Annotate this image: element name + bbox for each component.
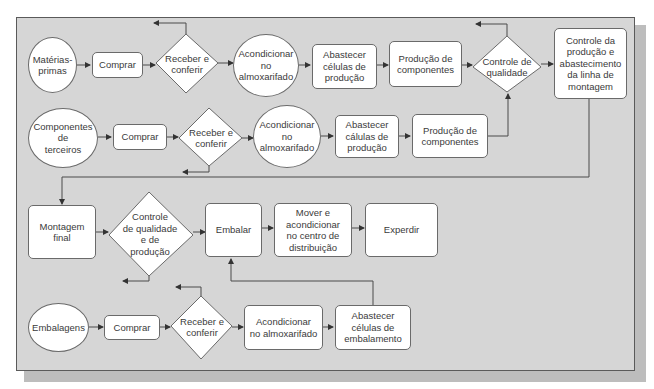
node-receber-conferir-2[interactable]: Receber e conferir xyxy=(180,124,242,152)
node-expedir[interactable]: Experdir xyxy=(365,203,438,257)
node-producao-1[interactable]: Produção de componentes xyxy=(389,41,462,87)
node-controle-producao[interactable]: Controle da produção e abastecimento da … xyxy=(554,28,627,99)
node-controle-qualidade[interactable]: Controle de qualidade xyxy=(474,52,540,82)
node-comprar-3[interactable]: Comprar xyxy=(104,315,160,340)
node-abastecer-3[interactable]: Abastecer células de embalamento xyxy=(335,305,411,350)
node-acondicionar-1[interactable]: Acondicionar no almoxarifado xyxy=(233,34,299,97)
node-componentes-terceiros[interactable]: Componentes de terceiros xyxy=(28,108,98,168)
node-materias-primas[interactable]: Matérias- primas xyxy=(28,37,77,93)
node-abastecer-2[interactable]: Abastecer cálulas de produção xyxy=(335,115,399,158)
node-embalar[interactable]: Embalar xyxy=(205,203,262,257)
node-abastecer-1[interactable]: Abastecer células de produção xyxy=(312,44,377,89)
node-acondicionar-3[interactable]: Acondicionar no almoxarifado xyxy=(244,305,323,350)
node-mover-acondicionar[interactable]: Mover e acondicionar no centro de distri… xyxy=(274,203,352,257)
node-comprar-2[interactable]: Comprar xyxy=(113,124,167,150)
node-comprar-1[interactable]: Comprar xyxy=(92,52,143,78)
node-receber-conferir-3[interactable]: Receber e conferir xyxy=(172,313,232,341)
node-producao-2[interactable]: Produção de componentes xyxy=(412,114,488,158)
node-montagem-final[interactable]: Montagem final xyxy=(28,205,96,259)
node-acondicionar-2[interactable]: Acondicionar no almoxarifado xyxy=(253,105,321,168)
node-controle-qualidade-producao[interactable]: Controle de qualidade e de produção xyxy=(118,209,182,259)
node-embalagens[interactable]: Embalagens xyxy=(28,303,89,352)
node-receber-conferir-1[interactable]: Receber e conferir xyxy=(156,50,218,78)
